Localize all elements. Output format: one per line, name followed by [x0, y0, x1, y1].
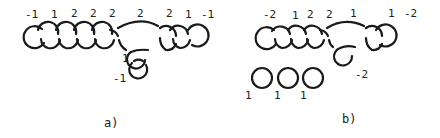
label: -2: [263, 8, 276, 21]
panel-b-chain-labels: -2 1 2 2 1 1 -2: [263, 7, 417, 22]
panel-a-chain: [24, 21, 209, 50]
label: 2: [71, 7, 78, 20]
link-diagram-figure: -1 1 2 2 2 2 2 1 -1 1 -1 a): [0, 0, 440, 138]
panel-b-pendant: [334, 46, 355, 65]
label: -1: [113, 72, 126, 85]
label: 2: [307, 8, 314, 21]
panel-a-chain-labels: -1 1 2 2 2 2 2 1 -1: [25, 7, 214, 21]
panel-b-chain: [256, 22, 397, 50]
label: 2: [109, 7, 116, 20]
label: -1: [201, 8, 214, 21]
label: 2: [326, 8, 333, 21]
label: -2: [404, 7, 417, 20]
label: 2: [90, 7, 97, 20]
panel-b-separate-circles: [252, 68, 323, 88]
label: -1: [25, 8, 38, 21]
label: 1: [292, 9, 299, 22]
label: -2: [355, 68, 368, 81]
panel-caption: b): [342, 112, 356, 126]
label: 1: [388, 7, 395, 20]
label: 1: [274, 89, 281, 102]
label: 2: [137, 7, 144, 20]
unknot-circle: [252, 68, 272, 88]
label: 1: [350, 7, 357, 20]
panel-b: -2 1 2 2 1 1 -2 -2 1 1 1 b): [245, 7, 417, 126]
unknot-circle: [303, 68, 323, 88]
label: 2: [166, 7, 173, 20]
panel-a: -1 1 2 2 2 2 2 1 -1 1 -1 a): [24, 7, 215, 130]
panel-caption: a): [104, 116, 118, 130]
label: 1: [122, 52, 129, 65]
label: 1: [245, 89, 252, 102]
panel-a-pendant: [127, 50, 148, 79]
label: 1: [300, 89, 307, 102]
label: 1: [51, 8, 58, 21]
label: 1: [185, 8, 192, 21]
unknot-circle: [278, 68, 298, 88]
